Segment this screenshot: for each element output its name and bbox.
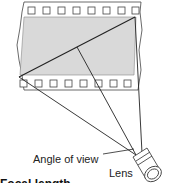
cut-off-caption: Focal length — [0, 177, 71, 183]
lens-icon — [133, 148, 164, 183]
angle-of-view-label: Angle of view — [33, 153, 98, 165]
angle-leader — [103, 149, 134, 154]
lens-label: Lens — [109, 167, 133, 179]
